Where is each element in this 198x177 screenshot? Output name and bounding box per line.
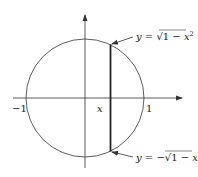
x-axis-label-minus-one: −1: [12, 103, 27, 114]
x-axis-label-one: 1: [146, 103, 152, 114]
upper-pointer-arrow: [112, 37, 133, 44]
unit-circle-diagram: −1 1 x y = √1 − x2 y = −√1 − x2: [0, 0, 198, 177]
lower-semicircle-equation: y = −√1 − x2: [135, 151, 198, 163]
upper-semicircle-equation: y = √1 − x2: [135, 30, 194, 42]
lower-pointer-arrow: [112, 152, 133, 157]
x-point-label: x: [97, 103, 103, 114]
